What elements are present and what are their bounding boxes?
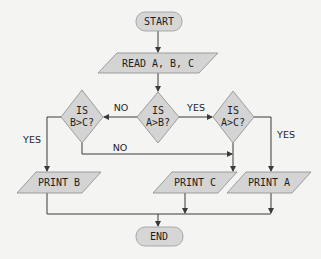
read-label: READ A, B, C xyxy=(122,58,194,69)
edge-bc-yes xyxy=(47,117,61,171)
print-b-node: PRINT B xyxy=(17,172,101,193)
start-label: START xyxy=(144,16,174,27)
print-c-node: PRINT C xyxy=(153,172,237,193)
print-b-label: PRINT B xyxy=(38,177,80,188)
print-c-label: PRINT C xyxy=(174,177,216,188)
print-a-label: PRINT A xyxy=(248,177,290,188)
decision-a-gt-b: IS A>B? xyxy=(137,92,179,143)
edge-label-bc-no: NO xyxy=(113,142,128,153)
edge-label-ab-yes: YES xyxy=(186,102,205,113)
print-a-node: PRINT A xyxy=(227,172,311,193)
edge-label-ab-no: NO xyxy=(114,102,129,113)
decision-a-gt-c: IS A>C? xyxy=(213,91,254,143)
decision-ab-line2: A>B? xyxy=(146,117,170,128)
flowchart-svg: START READ A, B, C IS A>B? IS B>C? IS A>… xyxy=(0,0,321,259)
edge-label-ac-yes: YES xyxy=(276,129,295,140)
decision-ac-line2: A>C? xyxy=(221,117,245,128)
decision-bc-line2: B>C? xyxy=(70,117,94,128)
flowchart-canvas: START READ A, B, C IS A>B? IS B>C? IS A>… xyxy=(0,0,321,259)
edge-label-bc-yes: YES xyxy=(22,134,41,145)
read-node: READ A, B, C xyxy=(98,53,218,73)
edge-ac-yes xyxy=(254,117,271,171)
end-node: END xyxy=(136,227,183,246)
edge-bc-no xyxy=(82,143,232,154)
decision-ac-line1: IS xyxy=(227,105,239,116)
decision-bc-line1: IS xyxy=(76,105,88,116)
end-label: END xyxy=(150,231,168,242)
start-node: START xyxy=(136,12,182,31)
decision-ab-line1: IS xyxy=(152,105,164,116)
decision-b-gt-c: IS B>C? xyxy=(61,90,103,143)
